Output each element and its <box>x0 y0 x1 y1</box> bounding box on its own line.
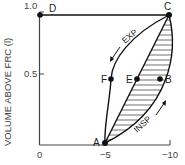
exp-arrow <box>110 47 120 62</box>
label-c: C <box>164 1 171 12</box>
y-tick-label-1: 1.0 <box>24 0 37 11</box>
label-f: F <box>101 74 107 85</box>
label-insp: INSP <box>132 114 154 135</box>
label-b: B <box>165 74 172 85</box>
label-a: A <box>93 137 100 148</box>
insp-arrow <box>156 100 166 115</box>
label-e: E <box>126 74 133 85</box>
point-d <box>37 12 43 18</box>
point-e <box>134 76 140 82</box>
y-tick-label-05: 0.5 <box>24 68 37 79</box>
pressure-volume-diagram: D C F E B A EXP INSP 1.0 0.5 0 −5 −10 VO… <box>0 0 185 165</box>
point-f <box>108 76 114 82</box>
point-a <box>102 140 108 146</box>
x-tick-label-0: 0 <box>37 149 42 160</box>
point-b <box>157 76 163 82</box>
label-d: D <box>49 3 56 14</box>
x-tick-label-5: −5 <box>100 149 111 160</box>
x-tick-label-10: −10 <box>162 149 178 160</box>
y-axis-label: VOLUME ABOVE FRC (l) <box>2 38 13 146</box>
point-c <box>166 12 172 18</box>
